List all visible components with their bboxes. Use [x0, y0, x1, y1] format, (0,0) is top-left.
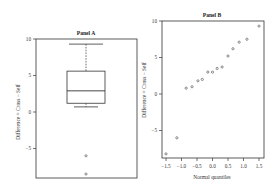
iqr-box [67, 71, 105, 103]
data-point [201, 78, 203, 80]
data-point [238, 41, 240, 43]
data-point [191, 86, 193, 88]
data-point [232, 48, 234, 50]
chart-figure: Panel A 1050−5 Difference = Cross − Self… [0, 0, 279, 190]
x-tick-label: −1.0 [177, 163, 187, 169]
x-tick-label: 1.0 [240, 163, 247, 169]
data-point [216, 67, 218, 69]
y-tick-label: 10 [152, 18, 158, 24]
x-tick-label: 0.5 [225, 163, 232, 169]
panel-b-frame [162, 21, 264, 158]
data-point [207, 71, 209, 73]
x-tick-label: −0.5 [192, 163, 202, 169]
panel-b-points [165, 25, 260, 155]
panel-b-x-axis: −1.5−1.0−0.50.00.51.01.5 [161, 158, 262, 169]
y-tick-label: 0 [154, 91, 157, 97]
y-tick-label: 0 [28, 109, 31, 115]
panel-b-x-label: Normal quantiles [193, 174, 230, 180]
panel-a-title: Panel A [77, 30, 96, 36]
y-tick-label: −5 [151, 127, 157, 133]
x-tick-label: −1.5 [161, 163, 171, 169]
data-point [227, 55, 229, 57]
data-point [246, 38, 248, 40]
data-point [258, 25, 260, 27]
data-point [197, 80, 199, 82]
y-tick-label: −5 [25, 145, 31, 151]
y-tick-label: 5 [28, 72, 31, 78]
x-tick-label: 0.0 [209, 163, 216, 169]
outlier-point [85, 173, 87, 175]
panel-b-y-label: Difference = Cross − Self [141, 62, 147, 118]
data-point [185, 87, 187, 89]
panel-a-frame [36, 39, 137, 178]
outlier-point [85, 155, 87, 157]
data-point [176, 137, 178, 139]
y-tick-label: 5 [154, 54, 157, 60]
panel-a-boxplot [67, 44, 105, 175]
y-tick-label: 10 [26, 36, 32, 42]
panel-a-y-label: Difference = Cross − Self [15, 84, 21, 140]
panel-b-title: Panel B [203, 12, 222, 18]
panel-b: Panel B 1050−5 −1.5−1.0−0.50.00.51.01.5 … [141, 12, 264, 180]
data-point [211, 71, 213, 73]
x-tick-label: 1.5 [256, 163, 263, 169]
panel-a: Panel A 1050−5 Difference = Cross − Self [15, 30, 137, 178]
panel-b-y-axis: 1050−5 [151, 18, 162, 134]
panel-a-y-axis: 1050−5 [25, 36, 36, 152]
data-point [221, 66, 223, 68]
data-point [165, 153, 167, 155]
